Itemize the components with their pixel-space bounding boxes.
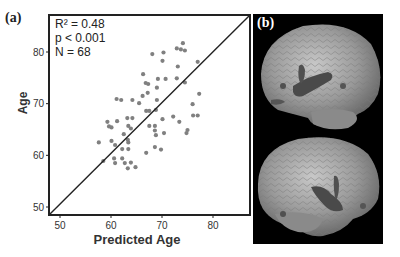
data-point xyxy=(123,161,127,165)
data-point xyxy=(126,140,130,144)
data-point xyxy=(146,91,150,95)
data-point xyxy=(113,161,117,165)
y-tick-label: 70 xyxy=(33,98,45,109)
data-point xyxy=(109,139,113,143)
data-point xyxy=(115,97,119,101)
y-tick-label: 60 xyxy=(33,150,45,161)
panel-b-label: (b) xyxy=(257,15,274,31)
data-point xyxy=(176,64,180,68)
data-point xyxy=(122,132,126,136)
data-point xyxy=(129,126,133,130)
x-tick-label: 80 xyxy=(207,220,219,231)
data-point xyxy=(154,133,158,137)
x-axis-ticks: 50607080 xyxy=(54,215,219,231)
data-point xyxy=(191,102,195,106)
stat-p: p < 0.001 xyxy=(55,31,106,45)
data-point xyxy=(164,77,168,81)
y-tick-label: 80 xyxy=(33,47,45,58)
data-point xyxy=(159,148,163,152)
data-point xyxy=(197,92,201,96)
data-point xyxy=(113,143,117,147)
data-point xyxy=(153,145,157,149)
data-point xyxy=(133,165,137,169)
data-point xyxy=(126,147,130,151)
data-point xyxy=(97,140,101,144)
data-point xyxy=(129,161,133,165)
brain-top-view xyxy=(261,24,380,129)
data-point xyxy=(177,120,181,124)
data-point xyxy=(179,47,183,51)
data-point xyxy=(115,119,119,123)
data-point xyxy=(144,151,148,155)
data-point xyxy=(105,120,109,124)
data-point xyxy=(181,41,185,45)
data-point xyxy=(155,98,159,102)
data-point xyxy=(119,98,123,102)
stat-r2: R² = 0.48 xyxy=(55,17,105,31)
data-point xyxy=(155,86,159,90)
data-point xyxy=(175,46,179,50)
data-point xyxy=(191,113,195,117)
x-tick-label: 50 xyxy=(54,220,66,231)
data-point xyxy=(196,60,200,64)
y-axis-label: Age xyxy=(16,91,30,114)
data-point xyxy=(175,76,179,80)
x-tick-label: 60 xyxy=(105,220,117,231)
data-point xyxy=(183,48,187,52)
data-point xyxy=(125,116,129,120)
x-axis-label: Predicted Age xyxy=(94,232,181,247)
data-point xyxy=(161,50,165,54)
data-point xyxy=(196,113,200,117)
data-point xyxy=(160,117,164,121)
data-point xyxy=(162,131,166,135)
data-point xyxy=(153,124,157,128)
data-point xyxy=(130,116,134,120)
y-axis-ticks: 50607080 xyxy=(33,47,49,213)
data-point xyxy=(120,156,124,160)
data-point xyxy=(130,98,134,102)
data-point xyxy=(112,156,116,160)
data-point xyxy=(137,101,141,105)
figure: (a) 50607080 50607080 Predicted Age Age … xyxy=(0,0,400,257)
data-point xyxy=(146,82,150,86)
data-point xyxy=(120,147,124,151)
data-point xyxy=(153,128,157,132)
data-point xyxy=(150,52,154,56)
x-tick-label: 70 xyxy=(156,220,168,231)
data-point xyxy=(160,59,164,63)
brain-renderings xyxy=(253,14,383,244)
data-point xyxy=(141,94,145,98)
data-point xyxy=(147,124,151,128)
data-point xyxy=(147,109,151,113)
data-point xyxy=(171,115,175,119)
data-point xyxy=(109,125,113,129)
data-point xyxy=(184,131,188,135)
data-point xyxy=(126,166,130,170)
brain-bottom-view xyxy=(258,137,379,236)
data-point xyxy=(156,77,160,81)
y-tick-label: 50 xyxy=(33,202,45,213)
stat-n: N = 68 xyxy=(55,45,91,59)
brain-image-panel: (b) xyxy=(253,14,383,244)
data-point xyxy=(141,72,145,76)
